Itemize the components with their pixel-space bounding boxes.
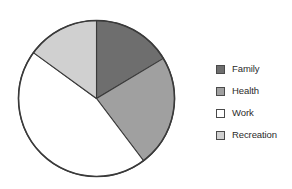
legend-item-work[interactable]: Work <box>216 102 292 124</box>
pie-plot-area <box>0 0 195 189</box>
legend-item-recreation[interactable]: Recreation <box>216 124 292 146</box>
legend-swatch-family <box>216 65 225 74</box>
legend-label-family: Family <box>232 64 259 74</box>
legend-label-recreation: Recreation <box>232 130 277 140</box>
legend-swatch-recreation <box>216 131 225 140</box>
legend-label-health: Health <box>232 86 259 96</box>
legend-swatch-work <box>216 109 225 118</box>
pie-chart-figure: Family Health Work Recreation <box>0 0 292 189</box>
legend-item-health[interactable]: Health <box>216 80 292 102</box>
pie-svg <box>0 0 195 189</box>
legend-item-family[interactable]: Family <box>216 58 292 80</box>
legend-swatch-health <box>216 87 225 96</box>
legend: Family Health Work Recreation <box>216 58 292 146</box>
legend-label-work: Work <box>232 108 254 118</box>
